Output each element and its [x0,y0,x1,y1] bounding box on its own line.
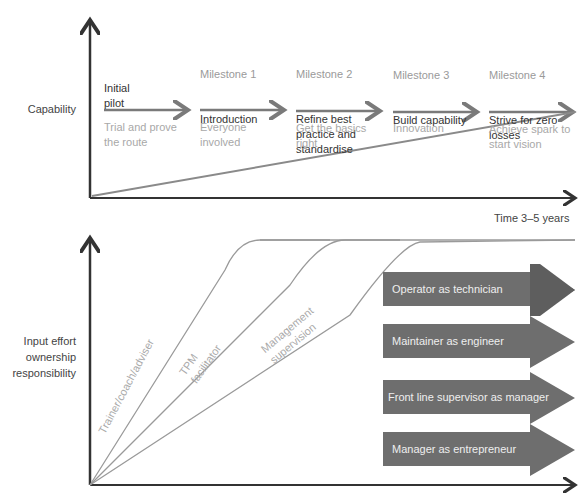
stage-description: Get the basics right [296,121,366,151]
stage-description: Trial and prove the route [104,120,177,150]
milestone-label: Milestone 3 [393,68,466,83]
stage-description: Everyone involved [200,120,246,150]
role-operator: Operator as technician [392,283,503,295]
stage-2: Milestone 2 Refine best practice and sta… [296,37,356,172]
stage-description: Innovation [393,121,444,136]
milestone-label: Milestone 1 [200,67,257,82]
milestone-label: Milestone 4 [489,68,557,83]
role-manager: Manager as entrepreneur [392,443,516,455]
role-front-line-supervisor: Front line supervisor as manager [388,391,549,403]
role-maintainer: Maintainer as engineer [392,335,504,347]
milestone-label: Milestone 2 [296,67,356,82]
y-axis-label-capability: Capability [18,101,76,117]
x-axis-label-time: Time 3–5 years [494,211,569,226]
stage-title: Initial pilot [104,81,130,111]
stage-0: Initial pilot [104,51,130,126]
stage-description: Achieve spark to start vision [489,122,570,152]
y-axis-label-effort: Input effort ownership responsibility [4,333,76,381]
